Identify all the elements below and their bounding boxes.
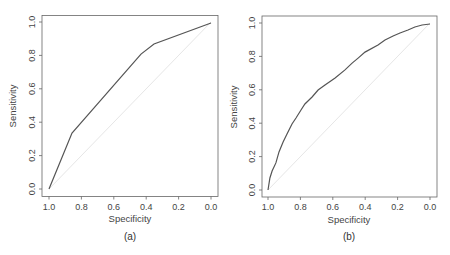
x-axis-ticks: 1.00.80.60.40.20.0	[43, 197, 218, 212]
y-tick-label: 0.2	[247, 150, 257, 163]
y-tick-label: 1.0	[27, 16, 37, 29]
chart-panel-a: 1.00.80.60.40.20.0 0.00.20.40.60.81.0 Sp…	[0, 0, 225, 255]
reference-diagonal	[268, 23, 430, 190]
x-tick-label: 0.6	[108, 202, 121, 212]
y-tick-label: 0.2	[27, 149, 37, 162]
y-tick-label: 0.4	[27, 116, 37, 129]
x-tick-label: 0.0	[424, 202, 437, 212]
x-tick-label: 0.8	[75, 202, 88, 212]
x-tick-label: 0.2	[172, 202, 185, 212]
chart-panel-b: 1.00.80.60.40.20.0 0.00.20.40.60.81.0 Sp…	[225, 0, 450, 255]
y-axis-title: Sensitivity	[7, 84, 18, 127]
reference-diagonal	[49, 22, 211, 189]
x-axis-title: Specificity	[109, 213, 152, 224]
roc-chart-a: 1.00.80.60.40.20.0 0.00.20.40.60.81.0 Sp…	[0, 0, 225, 255]
x-tick-label: 1.0	[262, 202, 275, 212]
y-tick-label: 0.8	[247, 50, 257, 63]
x-axis-title: Specificity	[328, 214, 371, 225]
x-tick-label: 0.4	[140, 202, 153, 212]
y-tick-label: 0.0	[247, 184, 257, 197]
x-tick-label: 0.0	[205, 202, 218, 212]
panel-caption: (a)	[124, 231, 136, 242]
y-axis-ticks: 0.00.20.40.60.81.0	[247, 17, 262, 197]
y-axis-title: Sensitivity	[228, 85, 239, 128]
x-axis-ticks: 1.00.80.60.40.20.0	[262, 197, 437, 212]
y-tick-label: 1.0	[247, 17, 257, 30]
y-tick-label: 0.6	[247, 84, 257, 97]
x-tick-label: 0.2	[391, 202, 404, 212]
y-axis-ticks: 0.00.20.40.60.81.0	[27, 16, 42, 196]
roc-chart-b: 1.00.80.60.40.20.0 0.00.20.40.60.81.0 Sp…	[225, 0, 450, 255]
y-tick-label: 0.8	[27, 49, 37, 62]
x-tick-label: 0.8	[294, 202, 307, 212]
x-tick-label: 1.0	[43, 202, 56, 212]
y-tick-label: 0.0	[27, 183, 37, 196]
y-tick-label: 0.6	[27, 83, 37, 96]
panel-caption: (b)	[343, 231, 355, 242]
y-tick-label: 0.4	[247, 117, 257, 130]
x-tick-label: 0.4	[359, 202, 372, 212]
x-tick-label: 0.6	[327, 202, 340, 212]
